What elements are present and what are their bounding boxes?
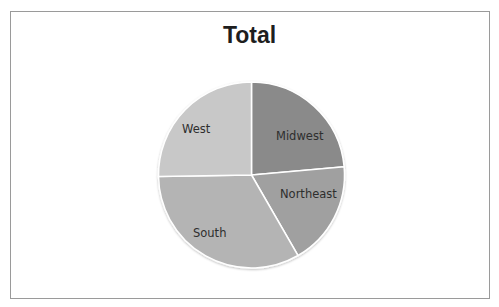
slice-label-west: West — [182, 122, 211, 136]
pie-chart: Midwest Northeast South West — [0, 0, 499, 307]
slice-label-south: South — [193, 226, 226, 240]
slice-label-northeast: Northeast — [280, 187, 337, 201]
slice-label-midwest: Midwest — [276, 129, 324, 143]
